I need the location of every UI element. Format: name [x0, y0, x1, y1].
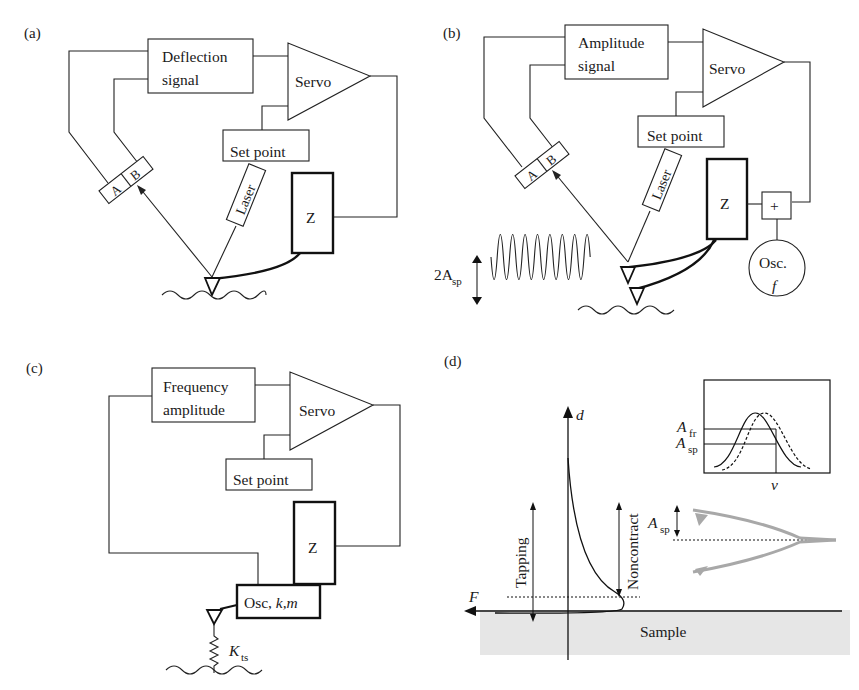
tip-up [621, 267, 635, 283]
laser-beam [628, 211, 650, 262]
laser-beam [212, 226, 236, 277]
panel-d-label: (d) [444, 353, 462, 370]
set-point-label: Set point [230, 143, 286, 160]
spring-icon [210, 624, 218, 673]
oscillation-wave [491, 235, 590, 280]
tapping-label: Tapping [512, 537, 529, 588]
panel-c: (c) Frequency amplitude Servo Set point … [26, 360, 400, 674]
panel-c-label: (c) [26, 360, 43, 377]
photodetector: A B [99, 156, 154, 204]
distance-axis-label: d [576, 406, 584, 423]
set-point-label: Set point [233, 471, 289, 488]
sample-surface [578, 306, 674, 314]
asp-label: A [647, 514, 658, 531]
force-axis-label: F [468, 588, 479, 605]
amplitude-subscript: sp [452, 275, 462, 287]
resonance-inset: A fr A sp ν [675, 380, 830, 493]
laser-box: Laser [642, 149, 681, 211]
asp-subscript: sp [660, 523, 670, 535]
oscillator-label: Osc, k,m [244, 594, 298, 611]
tip-up-gray [695, 513, 708, 526]
signal-box-line1: Amplitude [578, 34, 644, 51]
set-point-label: Set point [647, 127, 703, 144]
tip-down [630, 288, 644, 304]
afm-figure: (a) Deflection signal Servo Set point A … [0, 0, 859, 690]
afr-subscript: fr [689, 427, 697, 439]
sample-label: Sample [640, 623, 687, 640]
asp-inset-subscript: sp [688, 443, 698, 455]
asp-inset-label: A [675, 434, 686, 451]
amplitude-label: 2A [434, 266, 454, 283]
spring-constant-label: K [228, 642, 240, 659]
cantilever [220, 605, 237, 609]
force-curve [495, 458, 624, 613]
tip [207, 610, 222, 624]
cantilever [212, 253, 300, 279]
panel-a-label: (a) [24, 25, 41, 42]
panel-b: (b) Amplitude signal Servo Set point A B… [434, 25, 810, 314]
frequency-axis-label: ν [771, 476, 778, 493]
distance-axis-arrow-icon [563, 406, 573, 418]
afr-label: A [676, 418, 687, 435]
svg-text:Laser: Laser [649, 167, 675, 202]
z-label: Z [306, 209, 315, 226]
signal-box-line2: signal [162, 71, 199, 88]
z-label: Z [720, 195, 729, 212]
cantilever-down-gray [693, 540, 836, 572]
cantilever-up-gray [693, 510, 836, 540]
svg-text:Laser: Laser [233, 182, 259, 217]
signal-box-line1: Frequency [163, 378, 229, 395]
reflected-beam [139, 187, 212, 277]
panel-a: (a) Deflection signal Servo Set point A … [24, 25, 397, 299]
signal-box-line2: signal [578, 57, 615, 74]
force-axis-arrow-icon [464, 606, 476, 616]
adder-label: + [770, 197, 779, 214]
inset-frame [704, 380, 830, 473]
signal-box-line1: Deflection [162, 48, 228, 65]
servo-label: Servo [709, 60, 745, 77]
servo-label: Servo [299, 402, 335, 419]
spring-constant-subscript: ts [241, 651, 248, 663]
z-label: Z [308, 539, 317, 556]
laser-box: Laser [226, 164, 265, 226]
photodetector: A B [515, 141, 570, 189]
panel-b-label: (b) [443, 25, 461, 42]
servo-label: Servo [295, 73, 331, 90]
oscillator-label: Osc. [759, 254, 787, 271]
panel-d: (d) Sample F d Tapping Noncontract A sp [444, 353, 850, 660]
wire-b-top [114, 79, 148, 163]
noncontact-label: Noncontract [624, 513, 641, 590]
signal-box-line2: amplitude [163, 401, 225, 418]
